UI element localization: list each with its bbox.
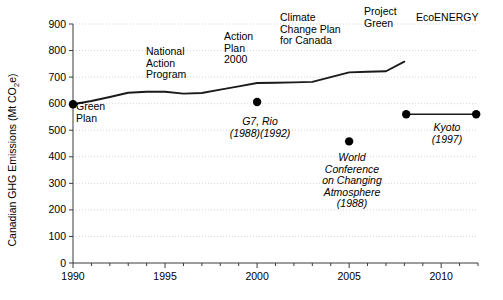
y-axis-title: Canadian GHG Emissions (Mt CO2e) (6, 73, 21, 246)
y-tick-label-700: 700 (48, 71, 66, 83)
world-conference-marker (345, 137, 353, 145)
annotation-kyoto: Kyoto (1997) (402, 122, 492, 145)
kyoto-start-marker (402, 110, 410, 118)
series-line-0 (73, 62, 404, 104)
annotation-climate-change-plan: Climate Change Plan for Canada (280, 12, 341, 47)
annotation-world-conference: World Conference on Changing Atmosphere … (296, 152, 408, 210)
y-tick-label-600: 600 (48, 97, 66, 109)
y-tick-label-400: 400 (48, 150, 66, 162)
y-tick-label-500: 500 (48, 124, 66, 136)
annotation-project-green: Project Green (364, 6, 397, 29)
series-line (73, 62, 404, 104)
x-tick-label-2010: 2010 (430, 270, 454, 282)
annotation-g7-rio: G7, Rio (1988)(1992) (203, 116, 317, 139)
annotation-action-plan-2000: Action Plan 2000 (224, 31, 253, 66)
annotation-national-action-program: National Action Program (146, 46, 186, 81)
y-tick-label-100: 100 (48, 230, 66, 242)
y-tick-label-800: 800 (48, 44, 66, 56)
y-tick-label-300: 300 (48, 177, 66, 189)
x-tick-label-1990: 1990 (61, 270, 85, 282)
y-tick-label-200: 200 (48, 203, 66, 215)
x-tick-label-1995: 1995 (153, 270, 177, 282)
y-axis-title-text: Canadian GHG Emissions (Mt CO2e) (6, 73, 21, 246)
y-tick-label-900: 900 (48, 18, 66, 30)
g7-rio-marker (253, 98, 261, 106)
x-tick-label-2000: 2000 (245, 270, 269, 282)
axes (69, 24, 478, 268)
annotation-ecoenergy: EcoENERGY (416, 12, 478, 24)
y-tick-label-0: 0 (60, 257, 66, 269)
ghg-emissions-chart: 0100200300400500600700800900199019952000… (0, 0, 503, 300)
kyoto-end-marker (472, 110, 480, 118)
annotation-green-plan: Green Plan (76, 101, 105, 124)
x-tick-label-2005: 2005 (337, 270, 361, 282)
